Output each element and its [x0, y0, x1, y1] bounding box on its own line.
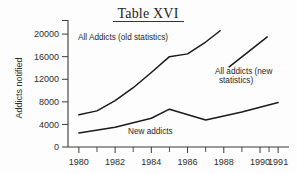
y-tick-label: 4000 [39, 120, 59, 130]
y-tick-group [62, 34, 68, 147]
x-minor-tick-group [97, 147, 269, 152]
y-tick-label: 20000 [34, 29, 59, 39]
x-tick-group [79, 147, 278, 153]
y-axis-title: Addicts notified [14, 57, 24, 118]
x-tick-label-group: 1980198219841986198819901991 [69, 157, 288, 167]
chart-figure: Table XVI Addicts notified 0400080001200… [0, 0, 297, 173]
y-tick-label: 16000 [34, 52, 59, 62]
series-line-all-addicts-new-statistics [229, 37, 267, 67]
annotation-new-addicts: New addicts [128, 127, 173, 136]
x-tick-label: 1988 [214, 157, 234, 167]
annotation-all-addicts-new-line2: statistics) [219, 76, 253, 85]
series-line-all-addicts-old-statistics [79, 31, 220, 115]
annotation-all-addicts-old: All Addicts (old statistics) [78, 33, 168, 42]
y-tick-label: 12000 [34, 74, 59, 84]
chart-title: Table XVI [117, 6, 178, 21]
x-tick-label: 1980 [69, 157, 89, 167]
x-tick-label: 1990 [250, 157, 270, 167]
series-line-new-addicts [79, 102, 278, 132]
annotation-all-addicts-new-line1: All addicts (new [215, 67, 272, 76]
x-tick-label: 1991 [268, 157, 288, 167]
y-tick-label: 8000 [39, 97, 59, 107]
y-tick-label-group: 040008000120001600020000 [34, 29, 59, 152]
y-tick-label: 0 [54, 142, 59, 152]
x-tick-label: 1982 [105, 157, 125, 167]
x-tick-label: 1984 [141, 157, 161, 167]
line-chart: Table XVI Addicts notified 0400080001200… [0, 0, 297, 173]
x-tick-label: 1986 [178, 157, 198, 167]
